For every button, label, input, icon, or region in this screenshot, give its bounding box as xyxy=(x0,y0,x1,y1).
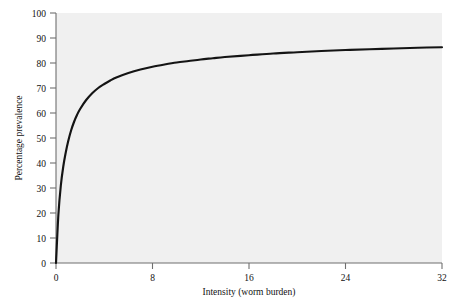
y-tick-label-100: 100 xyxy=(32,9,47,19)
y-tick-label-90: 90 xyxy=(37,34,47,44)
x-tick-label-0: 0 xyxy=(54,273,59,283)
y-tick-label-0: 0 xyxy=(41,259,46,269)
y-tick-label-40: 40 xyxy=(37,159,47,169)
y-tick-label-70: 70 xyxy=(37,84,47,94)
y-tick-label-20: 20 xyxy=(37,209,47,219)
prevalence-intensity-chart: 100 90 80 70 60 50 40 30 20 10 0 Percent… xyxy=(0,0,452,306)
y-tick-label-50: 50 xyxy=(37,134,47,144)
y-tick-label-30: 30 xyxy=(37,184,47,194)
plot-area-background xyxy=(56,13,442,263)
y-axis-title: Percentage prevalence xyxy=(14,95,24,180)
x-axis-title: Intensity (worm burden) xyxy=(203,287,296,298)
y-tick-label-10: 10 xyxy=(37,234,47,244)
x-tick-label-32: 32 xyxy=(437,273,447,283)
x-tick-label-16: 16 xyxy=(244,273,254,283)
x-tick-label-8: 8 xyxy=(150,273,155,283)
y-tick-label-60: 60 xyxy=(37,109,47,119)
chart-figure: 100 90 80 70 60 50 40 30 20 10 0 Percent… xyxy=(0,0,452,306)
x-tick-label-24: 24 xyxy=(341,273,351,283)
y-tick-label-80: 80 xyxy=(37,59,47,69)
